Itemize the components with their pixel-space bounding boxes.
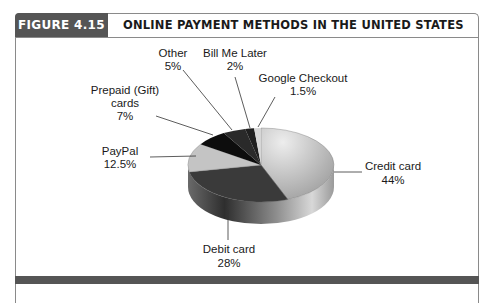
pct-google-checkout: 1.5% xyxy=(290,85,316,97)
pct-prepaid: 7% xyxy=(117,110,134,122)
pct-bill-me-later: 2% xyxy=(227,60,244,72)
label-paypal: PayPal xyxy=(102,145,138,157)
label-google-checkout: Google Checkout xyxy=(259,72,349,84)
pie-slices xyxy=(188,128,334,202)
pct-debit-card: 28% xyxy=(217,257,240,269)
pct-paypal: 12.5% xyxy=(104,158,137,170)
label-other: Other xyxy=(159,47,188,59)
label-bill-me-later: Bill Me Later xyxy=(203,47,267,59)
bottom-bar xyxy=(15,276,479,284)
pct-other: 5% xyxy=(165,60,182,72)
label-credit-card: Credit card xyxy=(365,160,421,172)
label-prepaid-line1: Prepaid (Gift) xyxy=(91,84,160,96)
label-debit-card: Debit card xyxy=(203,243,255,255)
label-prepaid-line2: cards xyxy=(111,97,139,109)
pct-credit-card: 44% xyxy=(381,174,404,186)
